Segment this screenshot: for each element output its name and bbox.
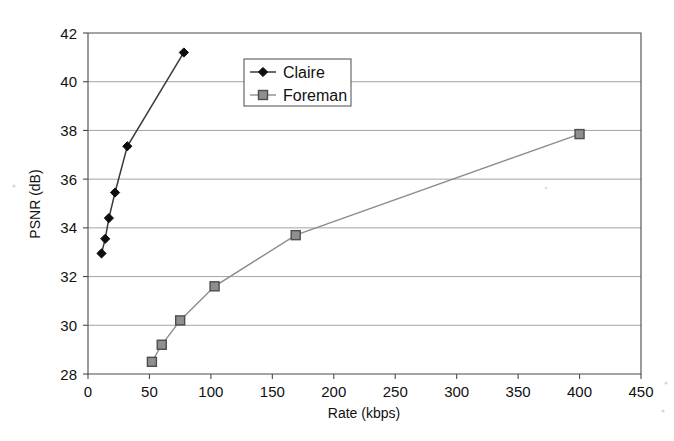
x-tick-label: 450: [628, 383, 653, 400]
data-point-marker: [157, 340, 166, 349]
legend-label: Foreman: [283, 87, 347, 104]
x-tick-label: 0: [84, 383, 92, 400]
scan-speck: [545, 187, 547, 189]
y-tick-label: 30: [60, 317, 77, 334]
x-axis-title: Rate (kbps): [328, 405, 400, 421]
scan-speck: [664, 381, 667, 384]
scan-speck: [12, 184, 15, 187]
chart-legend[interactable]: ClaireForeman: [244, 59, 351, 106]
y-tick-label: 32: [60, 268, 77, 285]
y-tick-label: 28: [60, 366, 77, 383]
legend-marker-square-icon: [259, 91, 268, 100]
y-tick-label: 42: [60, 25, 77, 42]
data-point-marker: [210, 282, 219, 291]
legend-label: Claire: [283, 64, 325, 81]
psnr-rate-line-chart: 2830323436384042 05010015020025030035040…: [0, 0, 674, 441]
y-axis-title: PSNR (dB): [27, 169, 43, 238]
x-tick-label: 400: [567, 383, 592, 400]
x-tick-label: 200: [321, 383, 346, 400]
y-tick-label: 34: [60, 219, 77, 236]
x-tick-label: 50: [141, 383, 158, 400]
chart-container: 2830323436384042 05010015020025030035040…: [0, 0, 674, 441]
y-tick-label: 40: [60, 73, 77, 90]
data-point-marker: [147, 357, 156, 366]
x-tick-label: 100: [198, 383, 223, 400]
y-tick-label: 38: [60, 122, 77, 139]
x-tick-label: 350: [506, 383, 531, 400]
x-tick-label: 250: [383, 383, 408, 400]
data-point-marker: [176, 316, 185, 325]
y-tick-label: 36: [60, 171, 77, 188]
data-point-marker: [291, 231, 300, 240]
x-tick-label: 150: [260, 383, 285, 400]
x-tick-label: 300: [444, 383, 469, 400]
data-point-marker: [575, 130, 584, 139]
scan-speck: [661, 409, 664, 412]
